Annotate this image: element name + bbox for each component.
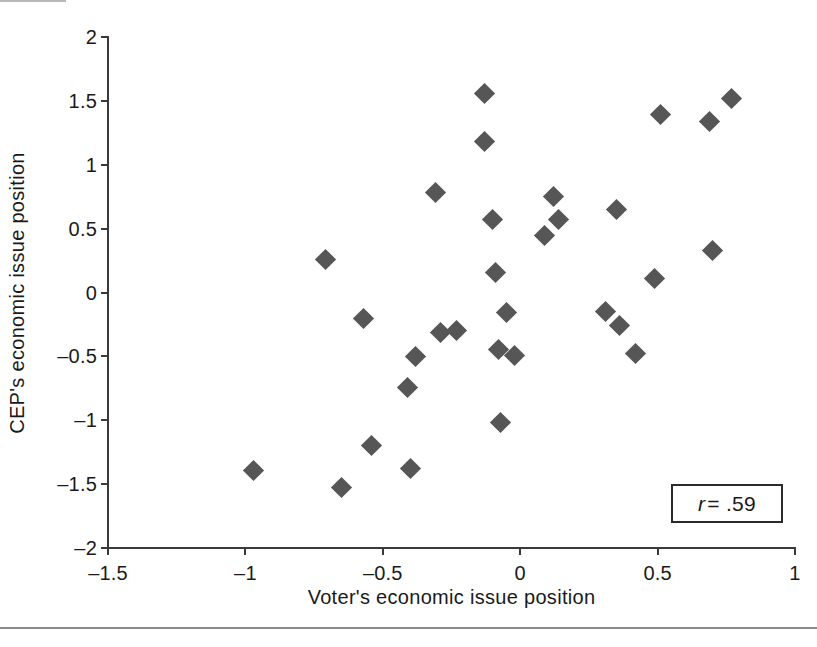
y-axis-tick <box>101 164 108 166</box>
x-axis-tick-label: 0.5 <box>643 563 671 583</box>
x-axis-tick <box>382 548 384 555</box>
data-point <box>650 104 671 125</box>
y-axis-tick-label: 1 <box>86 155 97 175</box>
data-point <box>474 131 495 152</box>
data-point <box>314 249 335 270</box>
data-point <box>243 459 264 480</box>
data-point <box>702 240 723 261</box>
data-point <box>625 343 646 364</box>
data-point <box>361 435 382 456</box>
y-axis-tick-label: –1.5 <box>57 474 97 494</box>
data-point <box>595 301 616 322</box>
data-point <box>543 186 564 207</box>
y-axis-tick <box>101 228 108 230</box>
x-axis-tick-label: –1 <box>234 563 257 583</box>
data-point <box>474 83 495 104</box>
x-axis-tick <box>794 548 796 555</box>
y-axis-label-container: CEP's economic issue position <box>0 37 34 548</box>
data-point <box>609 315 630 336</box>
scatter-plot-figure: CEP's economic issue position 21.510.50–… <box>0 0 817 647</box>
data-point <box>534 224 555 245</box>
x-axis-tick-label: –0.5 <box>363 563 403 583</box>
data-point <box>353 307 374 328</box>
y-axis-label: CEP's economic issue position <box>6 152 29 434</box>
correlation-symbol: r <box>698 492 707 516</box>
x-axis-tick <box>107 548 109 555</box>
x-axis-tick <box>657 548 659 555</box>
y-axis-tick <box>101 36 108 38</box>
y-axis-tick <box>101 419 108 421</box>
x-axis-tick <box>519 548 521 555</box>
data-point <box>496 302 517 323</box>
data-point <box>482 209 503 230</box>
x-axis-tick-label: –1.5 <box>88 563 128 583</box>
y-axis-tick-label: –0.5 <box>57 346 97 366</box>
y-axis-tick-label: –1 <box>74 410 97 430</box>
x-axis-label: Voter's economic issue position <box>108 586 795 609</box>
plot-area: 21.510.50–0.5–1–1.5–2–1.5–1–0.500.51 <box>108 37 795 548</box>
data-point <box>397 376 418 397</box>
y-axis-tick <box>101 355 108 357</box>
correlation-annotation-box: r= .59 <box>671 484 783 523</box>
y-axis-tick-label: 2 <box>86 27 97 47</box>
bottom-rule <box>0 627 817 629</box>
y-axis-tick-label: 1.5 <box>69 91 97 111</box>
data-point <box>490 412 511 433</box>
x-axis-tick-label: 0 <box>515 563 526 583</box>
data-point <box>644 268 665 289</box>
y-axis-tick-label: –2 <box>74 538 97 558</box>
x-axis-tick <box>244 548 246 555</box>
y-axis-tick-label: 0 <box>86 283 97 303</box>
data-point <box>424 182 445 203</box>
data-point <box>699 111 720 132</box>
data-point <box>721 88 742 109</box>
y-axis-tick-label: 0.5 <box>69 219 97 239</box>
data-point <box>485 261 506 282</box>
y-axis-tick <box>101 483 108 485</box>
top-rule <box>0 0 66 2</box>
x-axis-tick-label: 1 <box>789 563 800 583</box>
y-axis-tick <box>101 292 108 294</box>
data-point <box>400 458 421 479</box>
data-point <box>405 346 426 367</box>
data-point <box>606 199 627 220</box>
data-point <box>331 477 352 498</box>
data-point <box>548 209 569 230</box>
y-axis-tick <box>101 100 108 102</box>
data-point <box>446 320 467 341</box>
correlation-value: = .59 <box>707 492 756 516</box>
